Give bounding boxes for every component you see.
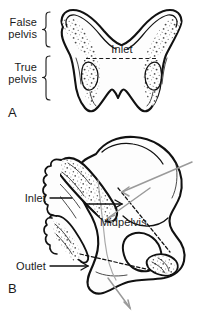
panel-b: Inlet Midpelvis Outlet B bbox=[0, 130, 197, 313]
false-pelvis-bracket bbox=[43, 12, 51, 47]
panel-b-illustration: Inlet Midpelvis Outlet B bbox=[0, 130, 197, 313]
panel-a-letter: A bbox=[8, 105, 17, 120]
inlet-label-a: Inlet bbox=[111, 43, 132, 55]
false-pelvis-label-line2: pelvis bbox=[8, 28, 37, 40]
panel-a: Inlet False pelvis True pelvis A bbox=[0, 0, 197, 130]
pelvis-figure: Inlet False pelvis True pelvis A bbox=[0, 0, 197, 313]
coccyx bbox=[44, 214, 92, 266]
panel-a-illustration: Inlet False pelvis True pelvis A bbox=[0, 0, 197, 130]
false-pelvis-label-line1: False bbox=[10, 16, 37, 28]
outlet-label: Outlet bbox=[16, 260, 46, 272]
true-pelvis-label-line1: True bbox=[14, 61, 37, 73]
panel-b-letter: B bbox=[8, 281, 17, 296]
true-pelvis-bracket bbox=[43, 56, 51, 100]
true-pelvis-label-line2: pelvis bbox=[8, 73, 37, 85]
outlet-leader bbox=[50, 262, 88, 270]
inlet-label-b: Inlet bbox=[25, 192, 46, 204]
